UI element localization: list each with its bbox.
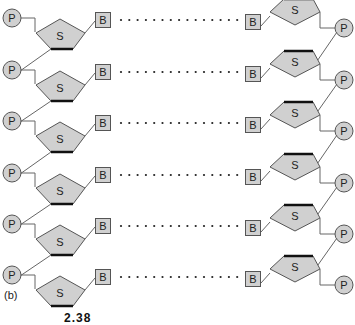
hydrogen-bond-dot xyxy=(170,225,172,227)
hydrogen-bond-dot xyxy=(203,19,205,21)
hydrogen-bond-dot xyxy=(178,71,180,73)
sugar-label-right: S xyxy=(291,107,298,119)
hydrogen-bond-dot xyxy=(195,19,197,21)
backbone-link-left xyxy=(20,204,51,225)
sugar-base-link-left xyxy=(85,21,95,33)
hydrogen-bond-dot xyxy=(228,276,230,278)
hydrogen-bond-dot xyxy=(228,225,230,227)
hydrogen-bond-dot xyxy=(137,19,139,21)
hydrogen-bond-dot xyxy=(211,174,213,176)
base-label-left: B xyxy=(99,14,106,26)
hydrogen-bond-dot xyxy=(120,71,122,73)
figure-caption-clipped: 2.38 xyxy=(64,311,91,325)
phosphate-label-right: P xyxy=(340,125,347,137)
hydrogen-bond-dot xyxy=(161,122,163,124)
panel-label: (b) xyxy=(4,289,17,301)
phosphate-label-right: P xyxy=(340,177,347,189)
hydrogen-bond-dot xyxy=(128,122,130,124)
sugar-label-left: S xyxy=(56,185,63,197)
hydrogen-bond-dot xyxy=(145,225,147,227)
phosphate-label-left: P xyxy=(8,115,15,127)
sugar-label-right: S xyxy=(291,210,298,222)
hydrogen-bond-dot xyxy=(186,19,188,21)
hydrogen-bond-dot xyxy=(178,19,180,21)
hydrogen-bond-dot xyxy=(153,122,155,124)
base-label-left: B xyxy=(99,271,106,283)
hydrogen-bond-dot xyxy=(220,71,222,73)
hydrogen-bond-dot xyxy=(170,174,172,176)
sugar-phosphate-link-right xyxy=(320,115,335,131)
phosphate-sugar-link-left xyxy=(21,224,35,238)
hydrogen-bond-dot xyxy=(178,276,180,278)
sugar-label-right: S xyxy=(291,261,298,273)
hydrogen-bond-dot xyxy=(137,122,139,124)
sugar-base-link-left xyxy=(85,73,95,85)
phosphate-label-left: P xyxy=(8,167,15,179)
hydrogen-bond-dot xyxy=(161,19,163,21)
hydrogen-bond-dot xyxy=(137,225,139,227)
phosphate-label-right: P xyxy=(340,74,347,86)
hydrogen-bond-dot xyxy=(161,174,163,176)
hydrogen-bond-dot xyxy=(220,122,222,124)
base-label-left: B xyxy=(99,66,106,78)
hydrogen-bond-dot xyxy=(186,276,188,278)
sugar-label-left: S xyxy=(56,236,63,248)
sugar-label-left: S xyxy=(56,133,63,145)
hydrogen-bond-dot xyxy=(228,71,230,73)
sugar-phosphate-link-right xyxy=(320,64,335,80)
hydrogen-bond-dot xyxy=(211,276,213,278)
backbone-link-left xyxy=(20,255,51,276)
sugar-label-left: S xyxy=(56,82,63,94)
base-sugar-link-right xyxy=(261,119,270,129)
hydrogen-bond-dot xyxy=(203,174,205,176)
hydrogen-bond-dot xyxy=(203,225,205,227)
hydrogen-bond-dot xyxy=(145,19,147,21)
hydrogen-bond-dot xyxy=(186,174,188,176)
hydrogen-bond-dot xyxy=(186,122,188,124)
hydrogen-bond-dot xyxy=(153,225,155,227)
phosphate-label-left: P xyxy=(8,12,15,24)
hydrogen-bond-dot xyxy=(170,122,172,124)
hydrogen-bond-dot xyxy=(137,174,139,176)
hydrogen-bond-dot xyxy=(220,19,222,21)
base-label-right: B xyxy=(249,171,256,183)
sugar-base-link-left xyxy=(85,278,95,290)
hydrogen-bond-dot xyxy=(145,71,147,73)
hydrogen-bond-dot xyxy=(220,276,222,278)
hydrogen-bond-dot xyxy=(170,71,172,73)
phosphate-sugar-link-left xyxy=(21,121,35,135)
base-label-left: B xyxy=(99,169,106,181)
hydrogen-bond-dot xyxy=(236,276,238,278)
hydrogen-bond-dot xyxy=(137,71,139,73)
backbone-link-left xyxy=(20,101,51,122)
sugar-phosphate-link-right xyxy=(320,167,335,183)
hydrogen-bond-dot xyxy=(120,276,122,278)
hydrogen-bond-dot xyxy=(145,174,147,176)
hydrogen-bond-dot xyxy=(153,174,155,176)
sugar-base-link-left xyxy=(85,227,95,239)
hydrogen-bond-dot xyxy=(128,19,130,21)
sugar-base-link-left xyxy=(85,124,95,136)
phosphate-sugar-link-left xyxy=(21,18,35,32)
base-label-right: B xyxy=(249,273,256,285)
phosphate-sugar-link-left xyxy=(21,70,35,84)
hydrogen-bond-dot xyxy=(178,174,180,176)
hydrogen-bond-dot xyxy=(236,174,238,176)
hydrogen-bond-dot xyxy=(195,174,197,176)
hydrogen-bond-dot xyxy=(228,19,230,21)
sugar-phosphate-link-right xyxy=(320,269,335,285)
hydrogen-bond-dot xyxy=(120,174,122,176)
base-sugar-link-right xyxy=(261,171,270,181)
hydrogen-bond-dot xyxy=(211,122,213,124)
phosphate-label-right: P xyxy=(340,228,347,240)
hydrogen-bond-dot xyxy=(128,71,130,73)
phosphate-label-left: P xyxy=(8,269,15,281)
sugar-label-right: S xyxy=(291,159,298,171)
hydrogen-bond-dot xyxy=(186,225,188,227)
hydrogen-bond-dot xyxy=(211,71,213,73)
backbone-link-left xyxy=(20,49,51,71)
hydrogen-bond-dot xyxy=(153,276,155,278)
hydrogen-bond-dot xyxy=(195,276,197,278)
hydrogen-bond-dot xyxy=(203,276,205,278)
